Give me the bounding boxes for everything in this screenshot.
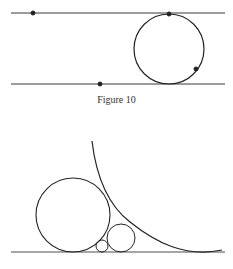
point-marker (31, 11, 35, 15)
figure-caption: Figure 10 (0, 94, 233, 105)
small-circle (96, 240, 108, 252)
figure-bottom (11, 141, 225, 252)
diagram-canvas (0, 0, 233, 269)
figure-top (11, 11, 225, 86)
point-marker (194, 67, 198, 71)
point-marker (167, 12, 171, 16)
point-marker (98, 82, 102, 86)
tangent-circle (134, 14, 204, 84)
medium-circle (107, 224, 135, 252)
bounding-arc (92, 141, 222, 252)
